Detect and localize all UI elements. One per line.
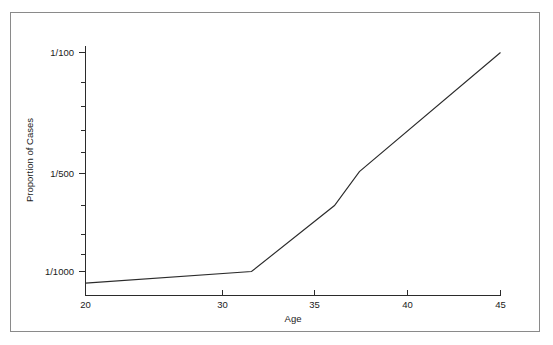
x-tick-label-20: 20	[80, 299, 91, 310]
y-tick-label-1-100: 1/100	[50, 47, 74, 58]
y-tick-label-1-1000: 1/1000	[45, 266, 74, 277]
y-axis: 1/100 1/500 1/1000 Proportion of Cases	[24, 46, 86, 295]
data-series-line	[86, 53, 501, 284]
x-tick-label-45: 45	[495, 299, 506, 310]
x-tick-label-35: 35	[309, 299, 320, 310]
y-axis-title: Proportion of Cases	[24, 118, 35, 202]
x-tick-label-30: 30	[217, 299, 228, 310]
data-series-group	[86, 53, 501, 284]
x-axis-title: Age	[285, 313, 302, 324]
figure-root: 1/100 1/500 1/1000 Proportion of Cases 2…	[0, 0, 553, 345]
y-tick-label-1-500: 1/500	[50, 168, 74, 179]
line-chart: 1/100 1/500 1/1000 Proportion of Cases 2…	[0, 0, 553, 345]
x-axis: 20 30 35 40 45 Age	[80, 290, 506, 325]
x-tick-label-40: 40	[402, 299, 413, 310]
